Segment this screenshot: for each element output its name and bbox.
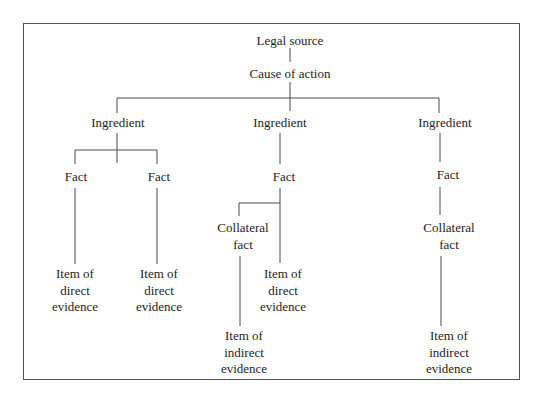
node-label-line: direct (52, 283, 98, 300)
node-ingredient-1: Ingredient (91, 115, 144, 132)
node-label-line: Item of (426, 328, 472, 345)
node-label-line: direct (136, 283, 182, 300)
node-label-line: Item of (221, 328, 267, 345)
node-label-line: evidence (260, 299, 306, 316)
node-ingredient-2: Ingredient (253, 115, 306, 132)
node-direct-evidence-1a: Item of direct evidence (52, 266, 98, 316)
node-label-line: Collateral (423, 220, 474, 237)
node-label: Legal source (257, 33, 324, 48)
node-label-line: indirect (426, 345, 472, 362)
node-label-line: Item of (136, 266, 182, 283)
node-label: Ingredient (418, 115, 471, 130)
node-label: Ingredient (91, 115, 144, 130)
node-fact-1b: Fact (148, 169, 170, 186)
node-label-line: evidence (52, 299, 98, 316)
node-fact-3: Fact (437, 167, 459, 184)
node-fact-2: Fact (273, 169, 295, 186)
node-label-line: direct (260, 283, 306, 300)
node-label: Fact (65, 169, 87, 184)
node-legal-source: Legal source (257, 33, 324, 50)
node-label-line: fact (423, 237, 474, 254)
node-label-line: Collateral (217, 220, 268, 237)
node-indirect-evidence-2: Item of indirect evidence (221, 328, 267, 378)
node-label: Fact (148, 169, 170, 184)
node-label-line: Item of (260, 266, 306, 283)
node-label: Ingredient (253, 115, 306, 130)
node-direct-evidence-1b: Item of direct evidence (136, 266, 182, 316)
node-ingredient-3: Ingredient (418, 115, 471, 132)
node-collateral-fact-2: Collateral fact (217, 220, 268, 253)
node-label-line: evidence (136, 299, 182, 316)
node-label-line: evidence (221, 361, 267, 378)
node-label: Cause of action (250, 66, 331, 81)
node-label-line: Item of (52, 266, 98, 283)
node-cause-of-action: Cause of action (250, 66, 331, 83)
node-indirect-evidence-3: Item of indirect evidence (426, 328, 472, 378)
node-collateral-fact-3: Collateral fact (423, 220, 474, 253)
node-label-line: evidence (426, 361, 472, 378)
node-fact-1a: Fact (65, 169, 87, 186)
node-direct-evidence-2: Item of direct evidence (260, 266, 306, 316)
node-label-line: fact (217, 237, 268, 254)
node-label-line: indirect (221, 345, 267, 362)
node-label: Fact (273, 169, 295, 184)
node-label: Fact (437, 167, 459, 182)
